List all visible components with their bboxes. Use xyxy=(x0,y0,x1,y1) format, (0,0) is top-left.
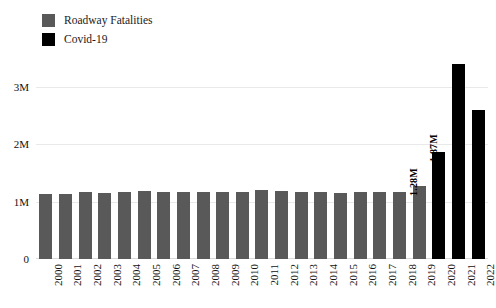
bar-slot xyxy=(350,58,370,259)
y-axis-tick-label: 1M xyxy=(14,196,29,208)
bar[interactable] xyxy=(275,191,288,259)
x-axis-tick: 2006 xyxy=(154,262,174,308)
bar[interactable] xyxy=(197,192,210,259)
y-axis-tick-label: 3M xyxy=(14,81,29,93)
x-axis-tick: 2003 xyxy=(95,262,115,308)
bar-slot: 1.87M xyxy=(429,58,449,259)
bar-slot xyxy=(252,58,272,259)
x-axis-tick: 2008 xyxy=(193,262,213,308)
bar[interactable] xyxy=(295,192,308,259)
x-axis-tick: 2001 xyxy=(56,262,76,308)
bar-slot xyxy=(95,58,115,259)
plot-area: 01M2M3M 1.28M1.87M xyxy=(36,58,488,259)
bar-slot xyxy=(174,58,194,259)
legend-swatch-roadway xyxy=(42,14,55,27)
bar-slot xyxy=(331,58,351,259)
bars-layer: 1.28M1.87M xyxy=(36,58,488,259)
bar[interactable]: 1.87M xyxy=(432,152,445,259)
x-axis-tick: 2014 xyxy=(311,262,331,308)
x-axis-tick-text: 2022 xyxy=(484,264,496,286)
bar-slot xyxy=(370,58,390,259)
bar-slot xyxy=(468,58,488,259)
bar-value-label: 1.28M xyxy=(408,168,419,196)
x-axis-tick: 2020 xyxy=(429,262,449,308)
x-axis-tick: 2018 xyxy=(390,262,410,308)
x-axis-tick: 2004 xyxy=(115,262,135,308)
bar[interactable] xyxy=(59,194,72,259)
x-axis-tick: 2007 xyxy=(174,262,194,308)
x-axis-tick: 2000 xyxy=(36,262,56,308)
bar-slot xyxy=(154,58,174,259)
bar[interactable] xyxy=(39,194,52,259)
legend-item[interactable]: Roadway Fatalities xyxy=(42,12,302,29)
bar-slot xyxy=(233,58,253,259)
bar-slot xyxy=(134,58,154,259)
x-axis-tick: 2013 xyxy=(291,262,311,308)
x-axis-tick: 2021 xyxy=(449,262,469,308)
legend-item-label: Covid-19 xyxy=(64,33,107,46)
bar[interactable]: 1.28M xyxy=(413,186,426,260)
bar[interactable] xyxy=(373,192,386,259)
x-axis-tick: 2016 xyxy=(350,262,370,308)
bar-slot: 1.28M xyxy=(409,58,429,259)
bar[interactable] xyxy=(472,110,485,259)
x-axis-tick: 2011 xyxy=(252,262,272,308)
x-axis-tick: 2005 xyxy=(134,262,154,308)
bar[interactable] xyxy=(255,190,268,259)
bar-slot xyxy=(291,58,311,259)
bar-slot xyxy=(213,58,233,259)
bar[interactable] xyxy=(118,192,131,259)
bar-slot xyxy=(449,58,469,259)
bar[interactable] xyxy=(216,192,229,259)
bar-slot xyxy=(56,58,76,259)
y-axis-tick-label: 0 xyxy=(24,253,30,265)
bar-slot xyxy=(193,58,213,259)
x-axis-tick: 2012 xyxy=(272,262,292,308)
bar[interactable] xyxy=(177,192,190,259)
bar[interactable] xyxy=(98,193,111,259)
bar[interactable] xyxy=(334,193,347,259)
bar[interactable] xyxy=(79,192,92,259)
bar[interactable] xyxy=(393,192,406,259)
x-axis-tick: 2010 xyxy=(233,262,253,308)
x-axis-tick: 2022 xyxy=(468,262,488,308)
bar-slot xyxy=(272,58,292,259)
bar[interactable] xyxy=(314,192,327,259)
bar-slot xyxy=(115,58,135,259)
legend-item[interactable]: Covid-19 xyxy=(42,31,302,48)
bar[interactable] xyxy=(452,64,465,259)
legend-swatch-covid xyxy=(42,33,55,46)
x-axis-tick: 2017 xyxy=(370,262,390,308)
bar[interactable] xyxy=(236,192,249,259)
bar-slot xyxy=(311,58,331,259)
bar[interactable] xyxy=(354,192,367,259)
bar[interactable] xyxy=(138,191,151,259)
bar-slot xyxy=(75,58,95,259)
x-axis-tick: 2015 xyxy=(331,262,351,308)
x-axis-tick: 2009 xyxy=(213,262,233,308)
y-axis-tick-label: 2M xyxy=(14,138,29,150)
x-axis-tick: 2002 xyxy=(75,262,95,308)
bar-slot xyxy=(390,58,410,259)
chart-legend: Roadway FatalitiesCovid-19 xyxy=(42,12,302,50)
bar-value-label: 1.87M xyxy=(428,134,439,162)
bar-slot xyxy=(36,58,56,259)
bar[interactable] xyxy=(157,192,170,259)
x-axis-tick-labels: 2000200120022003200420052006200720082009… xyxy=(36,262,488,308)
x-axis-tick: 2019 xyxy=(409,262,429,308)
legend-item-label: Roadway Fatalities xyxy=(64,14,152,27)
